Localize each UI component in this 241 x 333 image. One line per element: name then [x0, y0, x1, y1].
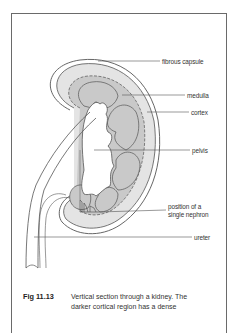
label-medulla: medulla [187, 92, 209, 99]
label-nephron-line1: position of a [168, 203, 201, 210]
ureter-end [26, 265, 38, 268]
figure-number: Fig 11.13 [23, 292, 54, 301]
label-pelvis: pelvis [192, 147, 208, 154]
label-cortex: cortex [191, 109, 208, 116]
label-nephron-line2: single nephron [168, 211, 209, 218]
caption-line-1: Vertical section through a kidney. The [71, 292, 221, 302]
figure-caption: Vertical section through a kidney. The d… [71, 292, 221, 313]
label-fibrous-capsule: fibrous capsule [162, 58, 203, 65]
label-ureter: ureter [194, 234, 210, 241]
caption-line-2: darker cortical region has a dense [71, 302, 221, 312]
